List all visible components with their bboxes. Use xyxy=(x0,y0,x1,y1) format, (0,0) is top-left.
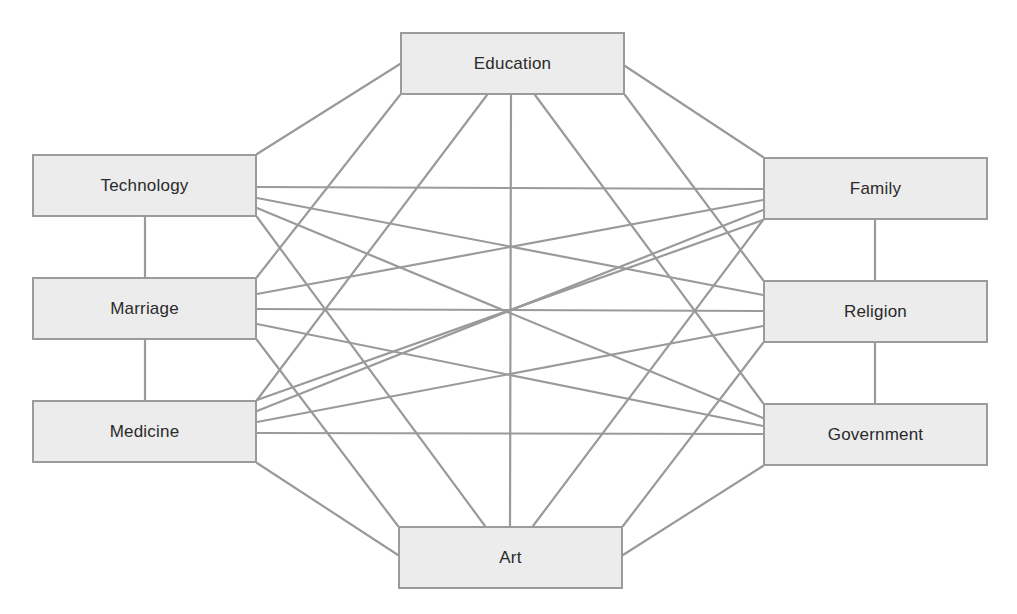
edge-government-art xyxy=(623,466,763,555)
edge-education-family xyxy=(625,66,763,157)
concept-network-diagram: EducationTechnologyMarriageMedicineFamil… xyxy=(0,0,1017,614)
edge-technology-art xyxy=(257,217,485,526)
node-label: Marriage xyxy=(110,299,179,319)
node-label: Family xyxy=(850,179,901,199)
node-religion: Religion xyxy=(763,280,988,343)
node-label: Education xyxy=(474,54,551,74)
node-government: Government xyxy=(763,403,988,466)
node-technology: Technology xyxy=(32,154,257,217)
node-label: Religion xyxy=(844,302,907,322)
node-medicine: Medicine xyxy=(32,400,257,463)
node-label: Medicine xyxy=(110,422,180,442)
node-family: Family xyxy=(763,157,988,220)
edge-family-art xyxy=(533,220,763,526)
node-education: Education xyxy=(400,32,625,95)
node-marriage: Marriage xyxy=(32,277,257,340)
edge-education-government xyxy=(535,95,763,403)
edge-education-medicine xyxy=(257,95,487,400)
edge-education-technology xyxy=(257,64,400,154)
edge-technology-family xyxy=(257,187,763,189)
edge-medicine-art xyxy=(257,463,398,555)
node-label: Government xyxy=(828,425,924,445)
edge-medicine-government xyxy=(257,433,763,434)
node-label: Art xyxy=(499,548,521,568)
node-art: Art xyxy=(398,526,623,589)
node-label: Technology xyxy=(100,176,188,196)
